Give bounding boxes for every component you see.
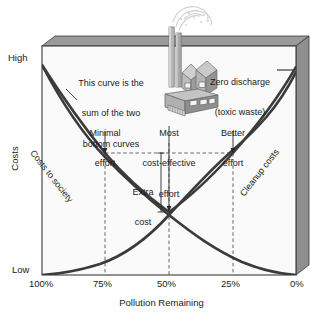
y-axis-title: Costs [9, 137, 20, 181]
y-axis-low-label: Low [12, 265, 29, 276]
zero-discharge-label: Zero discharge (toxic waste) [200, 57, 280, 138]
x-tick-50: 50% [157, 279, 176, 290]
x-axis-title: Pollution Remaining [0, 298, 323, 309]
x-tick-0: 0% [290, 279, 304, 290]
minimal-effort-line-2: effort [80, 158, 130, 168]
sum-note-line-1: This curve is the [58, 78, 164, 88]
smoke-icon [173, 7, 211, 31]
zero-discharge-line-1: Zero discharge [200, 77, 280, 87]
most-effective-line-1: Most [129, 128, 209, 138]
pollution-cost-chart: High Low Costs 100% 75% 50% 25% 0% Pollu… [0, 0, 323, 327]
extra-cost-line-2: cost [125, 217, 161, 227]
minimal-effort-line-1: Minimal [80, 128, 130, 138]
extra-cost-label: Extra cost [125, 167, 161, 248]
smoke-specks [180, 10, 209, 26]
extra-cost-line-1: Extra [125, 187, 161, 197]
x-tick-25: 25% [221, 279, 240, 290]
better-effort-line-2: effort [208, 158, 258, 168]
x-tick-75: 75% [93, 279, 112, 290]
zero-discharge-line-2: (toxic waste) [200, 107, 280, 117]
x-tick-100: 100% [29, 279, 53, 290]
minimal-effort-label: Minimal effort [80, 108, 130, 189]
y-axis-high-label: High [8, 53, 28, 64]
